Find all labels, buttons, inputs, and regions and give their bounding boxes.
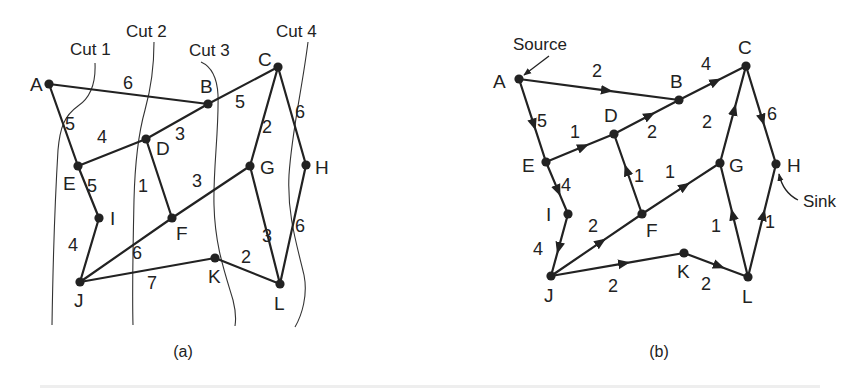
node-dot (275, 279, 284, 288)
edge-weight-label: 6 (132, 243, 142, 263)
node-dot (514, 74, 523, 83)
node-label: F (646, 220, 658, 241)
cut-label: Cut 2 (126, 22, 167, 41)
edge-weight-label: 4 (701, 54, 711, 74)
node-dot (771, 159, 780, 168)
node-dot (44, 79, 53, 88)
node-label: D (156, 138, 170, 159)
node-dot (301, 160, 310, 169)
node-label: D (604, 105, 618, 126)
edge-weight-label: 4 (68, 235, 78, 255)
edge-weight-label: 1 (765, 212, 775, 232)
node-dot (674, 95, 683, 104)
node-dot (715, 158, 724, 167)
directed-edge (519, 79, 679, 100)
cut-label: Cut 3 (189, 41, 230, 60)
node-label: G (260, 157, 275, 178)
node-dot (609, 129, 618, 138)
node-label: I (110, 208, 115, 229)
node-dot (94, 213, 103, 222)
node-dot (203, 99, 212, 108)
node-dot (273, 62, 282, 71)
node-dot (741, 61, 750, 70)
edge (172, 166, 250, 218)
edge-weight-label: 4 (97, 127, 107, 147)
flow-labels: 2541241126422211ABCDEGHIFJKL (493, 37, 801, 307)
edge (250, 166, 280, 284)
edge-weight-label: 6 (767, 104, 777, 124)
edge-weight-label: 5 (65, 114, 75, 134)
pointer-arrow-icon (524, 56, 549, 75)
annotation-label: Source (513, 35, 567, 54)
node-dot (563, 209, 572, 218)
edge (80, 218, 172, 282)
edge-weight-label: 2 (701, 274, 711, 294)
edge-weight-label: 1 (665, 162, 675, 182)
node-label: F (176, 223, 188, 244)
pointer-arrow-icon (779, 174, 798, 200)
node-label: I (546, 204, 551, 225)
node-dot (73, 161, 82, 170)
node-dot (141, 134, 150, 143)
figure-canvas: Cut 1Cut 2Cut 3Cut 4 6553451263467236ABC… (0, 0, 859, 388)
node-label: J (74, 290, 84, 311)
edge-weight-label: 3 (175, 124, 185, 144)
edge-weight-label: 2 (702, 112, 712, 132)
node-dot (743, 272, 752, 281)
cut-label: Cut 1 (70, 40, 111, 59)
annotation-label: Sink (803, 192, 837, 211)
node-label: A (30, 74, 43, 95)
edge-weight-label: 4 (561, 175, 571, 195)
edge-weight-label: 2 (608, 276, 618, 296)
panel-a-undirected-graph-with-cuts: Cut 1Cut 2Cut 3Cut 4 6553451263467236ABC… (30, 22, 329, 360)
node-dot (679, 248, 688, 257)
node-label: B (200, 76, 213, 97)
node-label: H (315, 157, 329, 178)
cut-line (289, 42, 308, 327)
node-label: C (738, 37, 752, 58)
node-dot (541, 157, 550, 166)
directed-edge (684, 253, 748, 277)
node-dot (75, 277, 84, 286)
edge-weight-label: 2 (647, 122, 657, 142)
directed-edge (720, 66, 746, 163)
directed-edge (720, 163, 748, 277)
edge-weight-label: 2 (588, 216, 598, 236)
directed-edge (679, 66, 746, 100)
node-label: A (493, 71, 506, 92)
node-label: J (544, 285, 554, 306)
node-label: C (258, 49, 272, 70)
edge-weight-label: 5 (235, 92, 245, 112)
panel-b-caption: (b) (649, 343, 669, 360)
cut-label: Cut 4 (276, 22, 317, 41)
edge-weight-label: 1 (138, 176, 148, 196)
edge-weight-label: 5 (537, 111, 547, 131)
edge-weight-label: 6 (123, 73, 133, 93)
node-label: K (677, 261, 690, 282)
node-dot (637, 209, 646, 218)
edge-weight-label: 3 (192, 171, 202, 191)
edge-weight-label: 3 (262, 226, 272, 246)
edge-weight-label: 7 (147, 273, 157, 293)
node-label: E (63, 173, 76, 194)
edge-weight-label: 2 (592, 61, 602, 81)
edge-weight-label: 1 (634, 166, 644, 186)
edge-weight-label: 5 (87, 176, 97, 196)
directed-edge (551, 253, 684, 276)
node-label: G (729, 155, 744, 176)
panel-a-caption: (a) (173, 343, 193, 360)
edge-weight-label: 1 (711, 216, 721, 236)
edge-weight-label: 6 (295, 102, 305, 122)
node-label: L (742, 286, 753, 307)
edge-weight-label: 1 (570, 122, 580, 142)
directed-edge (642, 163, 720, 214)
edge-weight-label: 4 (533, 239, 543, 259)
node-label: E (522, 155, 535, 176)
edge-weight-label: 6 (295, 216, 305, 236)
edge (80, 218, 99, 282)
node-label: L (274, 293, 285, 314)
node-dot (167, 213, 176, 222)
edge-weight-label: 2 (262, 117, 272, 137)
node-dot (245, 161, 254, 170)
node-dot (210, 253, 219, 262)
